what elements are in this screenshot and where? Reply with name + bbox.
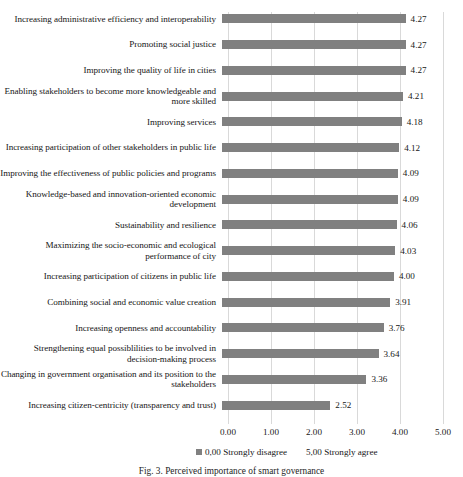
bar-cell: 4.06 (222, 212, 463, 238)
bar-value-label: 3.64 (384, 349, 400, 359)
bar-value-label: 3.36 (371, 374, 387, 384)
x-tick-label: 0.00 (220, 427, 236, 437)
chart-row: Improving the effectiveness of public po… (0, 161, 463, 187)
bar-cell: 4.00 (222, 264, 463, 290)
figure-caption: Fig. 3. Perceived importance of smart go… (0, 466, 463, 476)
chart-legend: 0,00 Strongly disagree5,00 Strongly agre… (0, 447, 463, 463)
bar-cell: 3.91 (222, 289, 463, 315)
chart-row: Increasing participation of citizens in … (0, 264, 463, 290)
chart-row: Increasing openness and accountability3.… (0, 315, 463, 341)
bar-cell: 4.27 (222, 58, 463, 84)
chart-row: Maximizing the socio-economic and ecolog… (0, 238, 463, 264)
bar-value-label: 3.91 (395, 297, 411, 307)
category-label: Promoting social justice (0, 39, 222, 50)
bar[interactable] (222, 169, 398, 178)
category-label: Increasing participation of other stakeh… (0, 142, 222, 153)
bar[interactable] (222, 40, 406, 49)
bar-cell: 4.12 (222, 135, 463, 161)
x-tick-label: 3.00 (349, 427, 365, 437)
category-label: Enabling stakeholders to become more kno… (0, 86, 222, 107)
bar-value-label: 4.12 (404, 143, 420, 153)
bar-value-label: 4.00 (399, 271, 415, 281)
caption-text: Perceived importance of smart governance (165, 466, 324, 476)
bar-cell: 3.76 (222, 315, 463, 341)
bar-value-label: 4.27 (411, 14, 427, 24)
legend-swatch-icon (196, 449, 202, 455)
bar[interactable] (222, 220, 397, 229)
category-label: Improving the effectiveness of public po… (0, 168, 222, 179)
bar-value-label: 4.03 (400, 246, 416, 256)
bar[interactable] (222, 14, 406, 23)
chart-row: Increasing administrative efficiency and… (0, 6, 463, 32)
bar-value-label: 4.27 (411, 65, 427, 75)
bar-value-label: 4.18 (407, 117, 423, 127)
legend-label: 5,00 Strongly agree (306, 447, 377, 457)
chart-rows: Increasing administrative efficiency and… (0, 6, 463, 418)
chart-row: Improving services4.18 (0, 109, 463, 135)
legend-label: 0,00 Strongly disagree (205, 447, 287, 457)
chart-row: Sustainability and resilience4.06 (0, 212, 463, 238)
x-tick-label: 1.00 (263, 427, 279, 437)
chart-row: Enabling stakeholders to become more kno… (0, 83, 463, 109)
category-label: Increasing citizen-centricity (transpare… (0, 400, 222, 411)
bar-cell: 4.27 (222, 32, 463, 58)
bar-chart: Increasing administrative efficiency and… (0, 6, 463, 431)
bar-cell: 4.18 (222, 109, 463, 135)
bar-value-label: 4.09 (403, 194, 419, 204)
chart-row: Changing in government organisation and … (0, 367, 463, 393)
category-label: Increasing participation of citizens in … (0, 271, 222, 282)
chart-row: Strengthening equal possiblilities to be… (0, 341, 463, 367)
category-label: Improving services (0, 117, 222, 128)
bar[interactable] (222, 246, 395, 255)
x-tick-label: 5.00 (435, 427, 451, 437)
category-label: Changing in government organisation and … (0, 369, 222, 390)
category-label: Improving the quality of life in cities (0, 65, 222, 76)
category-label: Sustainability and resilience (0, 220, 222, 231)
bar[interactable] (222, 195, 398, 204)
x-axis: 0.001.002.003.004.005.00 (0, 427, 463, 441)
bar[interactable] (222, 323, 384, 332)
chart-row: Increasing citizen-centricity (transpare… (0, 392, 463, 418)
legend-item[interactable]: 0,00 Strongly disagree (196, 447, 287, 457)
bar-value-label: 4.09 (403, 168, 419, 178)
bar-cell: 4.27 (222, 6, 463, 32)
category-label: Increasing administrative efficiency and… (0, 14, 222, 25)
category-label: Strengthening equal possiblilities to be… (0, 343, 222, 364)
chart-row: Promoting social justice4.27 (0, 32, 463, 58)
chart-row: Increasing participation of other stakeh… (0, 135, 463, 161)
bar[interactable] (222, 375, 366, 384)
bar-cell: 4.09 (222, 161, 463, 187)
bar-value-label: 2.52 (335, 400, 351, 410)
bar-value-label: 4.06 (402, 220, 418, 230)
x-tick-label: 2.00 (306, 427, 322, 437)
x-tick-label: 4.00 (392, 427, 408, 437)
category-label: Increasing openness and accountability (0, 323, 222, 334)
bar[interactable] (222, 117, 402, 126)
category-label: Combining social and economic value crea… (0, 297, 222, 308)
bar-value-label: 4.21 (408, 91, 424, 101)
legend-item[interactable]: 5,00 Strongly agree (306, 447, 377, 457)
chart-row: Knowledge-based and innovation-oriented … (0, 186, 463, 212)
bar-cell: 3.64 (222, 341, 463, 367)
bar-cell: 4.09 (222, 186, 463, 212)
bar[interactable] (222, 66, 406, 75)
bar-cell: 4.21 (222, 83, 463, 109)
bar-cell: 2.52 (222, 392, 463, 418)
caption-label: Fig. 3. (139, 466, 163, 476)
chart-row: Combining social and economic value crea… (0, 289, 463, 315)
bar-cell: 4.03 (222, 238, 463, 264)
bar[interactable] (222, 298, 390, 307)
bar[interactable] (222, 92, 403, 101)
figure-container: Increasing administrative efficiency and… (0, 0, 463, 477)
category-label: Knowledge-based and innovation-oriented … (0, 189, 222, 210)
bar[interactable] (222, 272, 394, 281)
bar-value-label: 3.76 (389, 323, 405, 333)
bar-value-label: 4.27 (411, 40, 427, 50)
chart-row: Improving the quality of life in cities4… (0, 58, 463, 84)
bar[interactable] (222, 349, 379, 358)
bar[interactable] (222, 143, 399, 152)
category-label: Maximizing the socio-economic and ecolog… (0, 240, 222, 261)
bar-cell: 3.36 (222, 367, 463, 393)
bar[interactable] (222, 401, 330, 410)
